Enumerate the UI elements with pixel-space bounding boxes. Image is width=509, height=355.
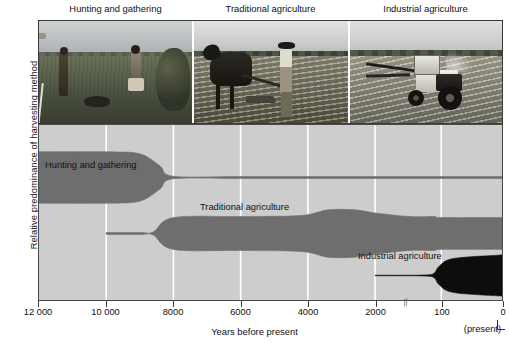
- present-bracket-icon: [497, 320, 505, 330]
- present-note: (present): [464, 324, 501, 334]
- figure-root: Relative predominance of harvesting meth…: [0, 0, 509, 355]
- x-axis-tick-label: 6000: [230, 307, 251, 317]
- photo-traditional-agriculture: [192, 21, 347, 123]
- photo-caption-industrial: Industrial agriculture: [348, 3, 503, 14]
- photo-caption-traditional: Traditional agriculture: [193, 3, 348, 14]
- gridlines: [106, 125, 441, 300]
- band-label-traditional: Traditional agriculture: [200, 202, 289, 212]
- ox-leg: [230, 82, 234, 109]
- x-axis-tick-label: 12 000: [24, 307, 52, 317]
- x-axis-tick-label: 2000: [365, 307, 386, 317]
- x-axis-tick-label: 0: [500, 307, 505, 317]
- hunter-figure-body: [59, 52, 68, 97]
- hunter-figure-head: [60, 47, 68, 55]
- band-traditional-agriculture: [106, 209, 502, 257]
- band-label-industrial: Industrial agriculture: [358, 251, 442, 261]
- bush: [156, 48, 190, 111]
- x-axis-tick-label: 100: [434, 307, 450, 317]
- band-label-hunting: Hunting and gathering: [45, 160, 137, 170]
- dust-cloud: [446, 52, 472, 72]
- photo-hunting-and-gathering: [39, 21, 192, 123]
- tractor-front-wheel: [408, 90, 424, 106]
- band-industrial-agriculture: [375, 255, 502, 296]
- farmer-body: [280, 49, 292, 96]
- photo-industrial-agriculture: [348, 21, 502, 123]
- tractor-rear-wheel: [438, 86, 462, 110]
- tractor-cab: [414, 55, 440, 75]
- photo-strip: [38, 20, 503, 124]
- ox-leg: [216, 82, 220, 109]
- dog-silhouette: [84, 96, 110, 107]
- x-axis-title: Years before present: [0, 326, 509, 337]
- band-chart-svg: [39, 125, 502, 300]
- x-axis-tick-label: 4000: [298, 307, 319, 317]
- gatherer-figure-skirt: [128, 78, 144, 91]
- x-axis-tick-label: 10 000: [91, 307, 119, 317]
- series-bands: [39, 152, 502, 296]
- photo-caption-hunting: Hunting and gathering: [38, 3, 193, 14]
- x-axis-tick-label: 8000: [163, 307, 184, 317]
- gatherer-figure-body: [131, 52, 141, 99]
- farmer-legs: [281, 92, 292, 116]
- plot-area: [38, 124, 503, 301]
- plough-share: [246, 96, 276, 103]
